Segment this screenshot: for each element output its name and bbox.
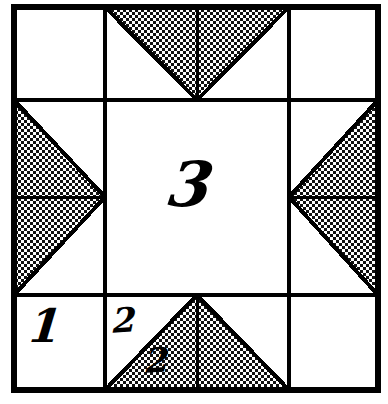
piece-label-3: 3 — [166, 154, 218, 216]
quilt-block-diagram: 1 2 2 3 — [0, 0, 388, 404]
piece-label-2-light: 2 — [113, 302, 137, 338]
piece-label-1: 1 — [28, 303, 65, 349]
piece-label-2-dark: 2 — [146, 342, 170, 378]
